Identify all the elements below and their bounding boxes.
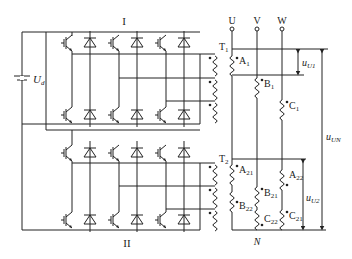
- terminal-u-label: U: [228, 15, 236, 26]
- neutral-label: N: [253, 236, 262, 247]
- winding-c1-label: C1: [289, 100, 300, 113]
- winding-b21-label: B21: [264, 187, 278, 200]
- voltage-u1-label: uU1: [302, 57, 316, 70]
- winding-c22-label: C22: [264, 213, 278, 226]
- terminal-v-label: V: [253, 15, 261, 26]
- output-terminals: U V W: [228, 15, 287, 31]
- winding-b22-label: B22: [239, 200, 253, 213]
- winding-b1-label: B1: [264, 78, 275, 91]
- dc-source-label: Ud: [33, 73, 45, 87]
- neutral-bus: N: [232, 230, 326, 247]
- winding-a1-label: A1: [239, 55, 250, 68]
- bridge-label-bottom: II: [123, 237, 131, 249]
- transformer-t2-label: T2: [219, 153, 229, 166]
- transformer-t1-label: T1: [219, 41, 229, 54]
- inverter-bridge-2: [61, 130, 215, 232]
- phase-u-secondary: A1 A21 B22: [230, 31, 254, 230]
- winding-a21-label: A21: [239, 164, 254, 177]
- winding-c21-label: C21: [289, 210, 303, 223]
- circuit-diagram: I II Ud: [0, 0, 352, 259]
- bridge-label-top: I: [122, 15, 126, 27]
- dc-source: Ud: [14, 32, 200, 230]
- phase-v-secondary: B1 B21 C22: [255, 31, 278, 230]
- voltage-u2-label: uU2: [306, 192, 320, 205]
- voltage-un-label: uUN: [326, 131, 341, 144]
- inverter-bridge-1: [22, 31, 215, 127]
- winding-a22-label: A22: [289, 169, 304, 182]
- phase-w-secondary: C1 A22 C21: [280, 31, 304, 230]
- transformer-t2-primary: T2: [200, 153, 229, 231]
- voltage-annotations: uU1 uU2 uUN: [232, 49, 341, 228]
- terminal-w-label: W: [277, 15, 287, 26]
- transformer-t1-primary: T1: [200, 41, 229, 124]
